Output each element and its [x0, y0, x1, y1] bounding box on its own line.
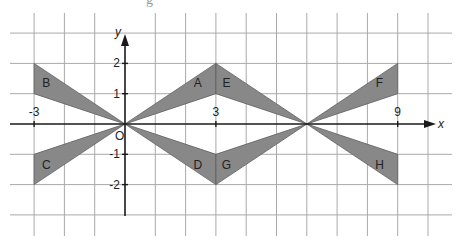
- y-axis-arrow-icon: [121, 34, 129, 46]
- origin-label: O: [115, 129, 124, 143]
- shape-label-c: C: [42, 158, 51, 172]
- shape-label-f: F: [376, 76, 383, 90]
- shape-label-e: E: [222, 76, 230, 90]
- axes: x y O: [10, 25, 445, 216]
- shape-label-d: D: [193, 158, 202, 172]
- shape-label-h: H: [375, 158, 384, 172]
- y-tick-label: 2: [113, 56, 120, 70]
- cropped-text-fragment: g: [146, 0, 153, 7]
- shape-label-g: G: [222, 158, 231, 172]
- x-axis-arrow-icon: [424, 120, 436, 128]
- y-tick-label: 1: [113, 87, 120, 101]
- x-tick-label: -3: [29, 105, 40, 119]
- x-axis-label: x: [437, 117, 445, 131]
- y-tick-label: -2: [109, 178, 120, 192]
- x-tick-label: 3: [213, 105, 220, 119]
- y-tick-label: -1: [109, 147, 120, 161]
- x-tick-label: 9: [394, 105, 401, 119]
- y-axis-label: y: [114, 25, 122, 39]
- shape-label-a: A: [194, 76, 202, 90]
- shape-label-b: B: [42, 76, 50, 90]
- coordinate-diagram: g x y O -33921-1-2 ABCDEFGH: [0, 0, 461, 243]
